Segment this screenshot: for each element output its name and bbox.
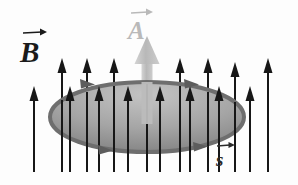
vector-diagram-svg bbox=[0, 0, 298, 185]
area-vector-label: A bbox=[128, 18, 145, 43]
field-arrow-front-8 bbox=[246, 86, 255, 172]
field-arrow-back-8 bbox=[264, 58, 273, 172]
magnetic-field-vector-label: B bbox=[20, 38, 39, 67]
figure-canvas: B A s bbox=[0, 0, 298, 185]
field-arrow-front-1 bbox=[30, 86, 39, 172]
area-vector-arrow-lower bbox=[142, 82, 153, 124]
path-direction-label: s bbox=[216, 150, 223, 169]
